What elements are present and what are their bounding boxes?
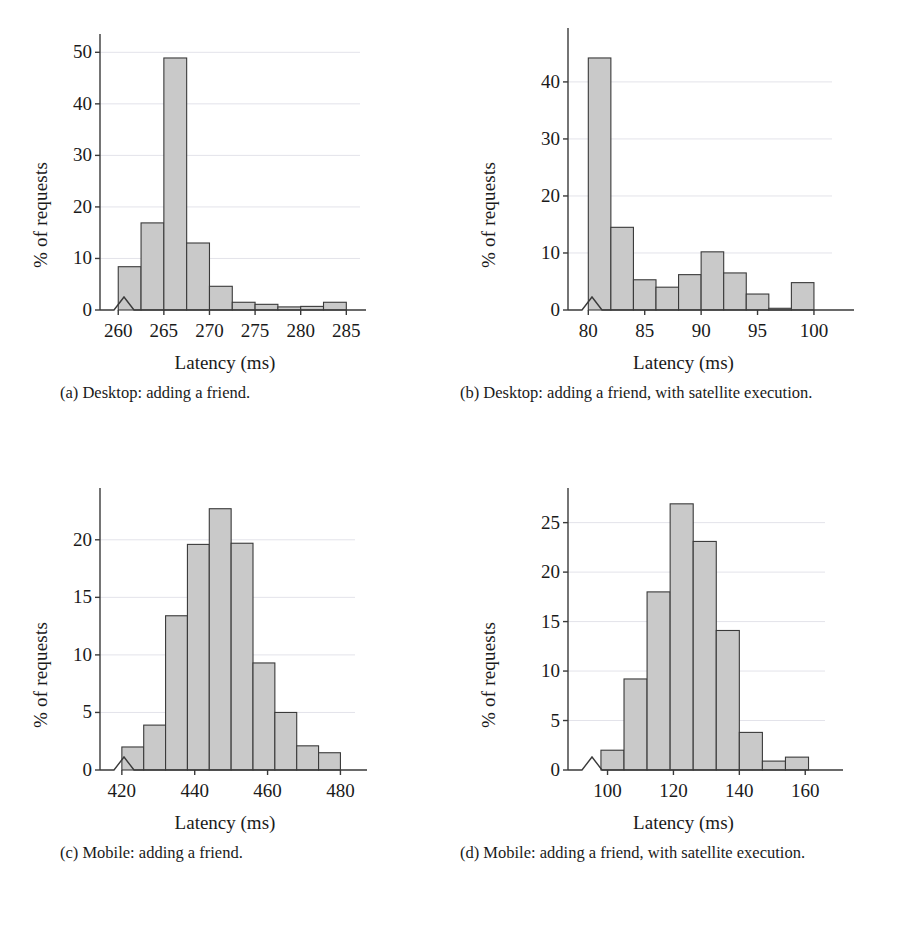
y-tick-label: 10: [58, 247, 92, 269]
y-tick-label: 10: [526, 660, 560, 682]
figure-grid: % of requests Latency (ms) 0102030405026…: [0, 0, 917, 936]
panel-d-chart: % of requests Latency (ms) 0510152025100…: [450, 460, 917, 838]
y-tick-label: 30: [526, 128, 560, 150]
x-tick-label: 420: [108, 780, 137, 802]
y-tick-label: 40: [58, 93, 92, 115]
histogram-bar: [141, 223, 164, 310]
panel-a-caption: (a) Desktop: adding a friend.: [0, 378, 450, 460]
y-tick-label: 10: [58, 644, 92, 666]
y-tick-label: 20: [526, 561, 560, 583]
panel-a-xlabel: Latency (ms): [0, 352, 450, 374]
histogram-bar: [670, 504, 693, 770]
histogram-bar: [319, 753, 341, 770]
x-tick-label: 440: [180, 780, 209, 802]
histogram-bar: [253, 663, 275, 770]
histogram-bar: [716, 630, 739, 770]
histogram-bar: [746, 294, 769, 310]
histogram-bar: [701, 252, 724, 310]
histogram-bar: [624, 679, 647, 770]
panel-c-chart: % of requests Latency (ms) 0510152042044…: [0, 460, 450, 838]
y-tick-label: 15: [58, 586, 92, 608]
histogram-bar: [724, 273, 747, 310]
panel-c-caption: (c) Mobile: adding a friend.: [0, 838, 450, 936]
histogram-bar: [656, 287, 679, 310]
histogram-bar: [166, 616, 188, 770]
panel-b-xlabel: Latency (ms): [450, 352, 917, 374]
y-tick-label: 20: [526, 185, 560, 207]
histogram-bar: [187, 243, 210, 310]
histogram-svg: [450, 0, 917, 378]
panel-d-caption: (d) Mobile: adding a friend, with satell…: [450, 838, 917, 936]
y-tick-label: 0: [58, 299, 92, 321]
x-tick-label: 95: [748, 320, 767, 342]
y-tick-label: 0: [58, 759, 92, 781]
histogram-bar: [297, 746, 319, 770]
panel-b-caption: (b) Desktop: adding a friend, with satel…: [450, 378, 917, 460]
y-tick-label: 0: [526, 299, 560, 321]
histogram-bar: [255, 304, 278, 310]
histogram-bar: [601, 750, 624, 770]
y-tick-label: 0: [526, 759, 560, 781]
x-tick-label: 270: [195, 320, 224, 342]
panel-b-plot: [450, 0, 917, 378]
x-tick-label: 285: [332, 320, 361, 342]
y-tick-label: 20: [58, 529, 92, 551]
y-tick-label: 5: [526, 710, 560, 732]
histogram-bar: [231, 543, 253, 770]
x-tick-label: 80: [579, 320, 598, 342]
panel-a-chart: % of requests Latency (ms) 0102030405026…: [0, 0, 450, 378]
histogram-bar: [187, 544, 209, 770]
x-tick-label: 140: [725, 780, 754, 802]
y-tick-label: 15: [526, 611, 560, 633]
histogram-bar: [209, 286, 232, 310]
x-tick-label: 100: [593, 780, 622, 802]
histogram-bar: [324, 302, 347, 310]
histogram-bar: [791, 283, 814, 310]
x-tick-label: 100: [800, 320, 829, 342]
y-tick-label: 20: [58, 196, 92, 218]
histogram-bar: [164, 58, 187, 310]
x-tick-label: 265: [150, 320, 179, 342]
x-tick-label: 85: [635, 320, 654, 342]
panel-c-xlabel: Latency (ms): [0, 812, 450, 834]
y-tick-label: 30: [58, 144, 92, 166]
x-tick-label: 120: [659, 780, 688, 802]
x-tick-label: 460: [253, 780, 282, 802]
y-tick-label: 40: [526, 71, 560, 93]
y-tick-label: 10: [526, 242, 560, 264]
histogram-bar: [144, 725, 166, 770]
y-tick-label: 25: [526, 512, 560, 534]
y-tick-label: 5: [58, 701, 92, 723]
histogram-bar: [762, 761, 785, 770]
panel-b-chart: % of requests Latency (ms) 0102030408085…: [450, 0, 917, 378]
histogram-bar: [611, 227, 634, 310]
x-tick-label: 160: [791, 780, 820, 802]
histogram-bar: [739, 732, 762, 770]
histogram-bar: [232, 302, 255, 310]
histogram-bar: [588, 58, 611, 310]
histogram-bar: [633, 280, 656, 310]
histogram-bar: [785, 757, 808, 770]
x-tick-label: 260: [104, 320, 133, 342]
y-tick-label: 50: [58, 41, 92, 63]
x-tick-label: 90: [692, 320, 711, 342]
histogram-bar: [275, 712, 297, 770]
x-tick-label: 480: [326, 780, 355, 802]
histogram-bar: [647, 592, 670, 770]
histogram-bar: [679, 275, 702, 310]
histogram-bar: [209, 509, 231, 770]
x-tick-label: 280: [286, 320, 315, 342]
histogram-bar: [693, 541, 716, 770]
x-tick-label: 275: [241, 320, 270, 342]
panel-d-xlabel: Latency (ms): [450, 812, 917, 834]
